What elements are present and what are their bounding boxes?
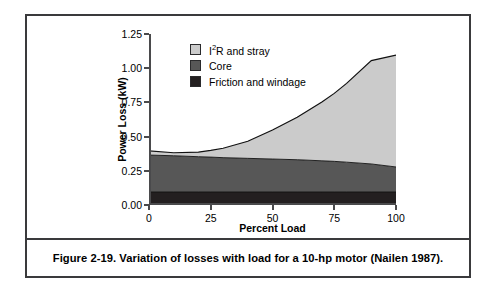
- legend-item: Core: [190, 58, 306, 73]
- x-tick-mark: [333, 205, 335, 210]
- x-tick-mark: [395, 205, 397, 210]
- caption-bar: Figure 2-19. Variation of losses with lo…: [27, 240, 469, 276]
- y-tick-mark: [144, 101, 149, 103]
- figure-frame: Power Loss (kW) 0.000.250.500.751.001.25…: [25, 14, 471, 278]
- x-tick-mark: [272, 205, 274, 210]
- chart-legend: I2R and strayCoreFriction and windage: [190, 42, 306, 90]
- legend-item-label: Core: [209, 60, 232, 72]
- figure-caption: Figure 2-19. Variation of losses with lo…: [53, 252, 443, 264]
- y-axis-title: Power Loss (kW): [115, 34, 129, 205]
- x-tick-mark: [210, 205, 212, 210]
- legend-swatch-icon: [190, 60, 201, 71]
- legend-swatch-icon: [190, 76, 201, 87]
- y-tick-label: 1.25: [122, 28, 142, 40]
- legend-swatch-icon: [190, 44, 201, 55]
- y-tick-label: 0.50: [122, 131, 142, 143]
- y-tick-label: 0.00: [122, 199, 142, 211]
- legend-item: Friction and windage: [190, 74, 306, 89]
- y-tick-label: 0.25: [122, 165, 142, 177]
- y-tick-mark: [144, 136, 149, 138]
- y-tick-mark: [144, 170, 149, 172]
- legend-item-label: I2R and stray: [209, 43, 270, 57]
- legend-item-label: Friction and windage: [209, 76, 306, 88]
- chart-region: Power Loss (kW) 0.000.250.500.751.001.25…: [27, 16, 469, 238]
- y-tick-mark: [144, 33, 149, 35]
- x-axis-title: Percent Load: [149, 222, 396, 234]
- y-tick-label: 1.00: [122, 62, 142, 74]
- legend-item: I2R and stray: [190, 42, 306, 57]
- y-tick-label: 0.75: [122, 96, 142, 108]
- y-tick-mark: [144, 67, 149, 69]
- x-tick-mark: [148, 205, 150, 210]
